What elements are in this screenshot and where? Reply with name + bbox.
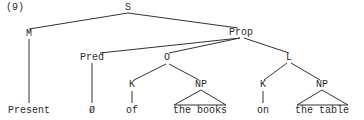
node-m: M bbox=[26, 29, 32, 39]
node-pred: Pred bbox=[80, 53, 104, 63]
node-np-table: NP bbox=[316, 80, 328, 90]
edge-l-np bbox=[291, 63, 320, 80]
node-prop: Prop bbox=[229, 28, 253, 38]
edge-prop-pred bbox=[100, 38, 240, 53]
leaf-present: Present bbox=[8, 106, 50, 116]
node-s: S bbox=[125, 3, 131, 13]
node-k-of: K bbox=[129, 80, 135, 90]
leaf-of: of bbox=[126, 106, 138, 116]
edge-s-m bbox=[29, 13, 128, 29]
leaf-the-books: the books bbox=[173, 106, 227, 116]
node-k-on: K bbox=[260, 80, 266, 90]
edge-s-prop bbox=[128, 13, 238, 28]
tree-edges bbox=[0, 0, 364, 120]
edge-o-np bbox=[169, 64, 199, 80]
edge-o-k bbox=[134, 64, 166, 80]
edge-prop-l bbox=[244, 38, 289, 53]
edge-prop-o bbox=[169, 38, 240, 53]
triangle-the-books bbox=[174, 90, 226, 105]
edge-l-k bbox=[264, 63, 287, 80]
node-np-books: NP bbox=[195, 80, 207, 90]
leaf-on: on bbox=[257, 106, 269, 116]
example-number: (9) bbox=[6, 3, 24, 13]
node-o: O bbox=[164, 53, 170, 63]
leaf-empty: Ø bbox=[89, 106, 95, 116]
node-l: L bbox=[286, 53, 292, 63]
leaf-the-table: the table bbox=[295, 106, 349, 116]
triangle-the-table bbox=[297, 90, 348, 105]
